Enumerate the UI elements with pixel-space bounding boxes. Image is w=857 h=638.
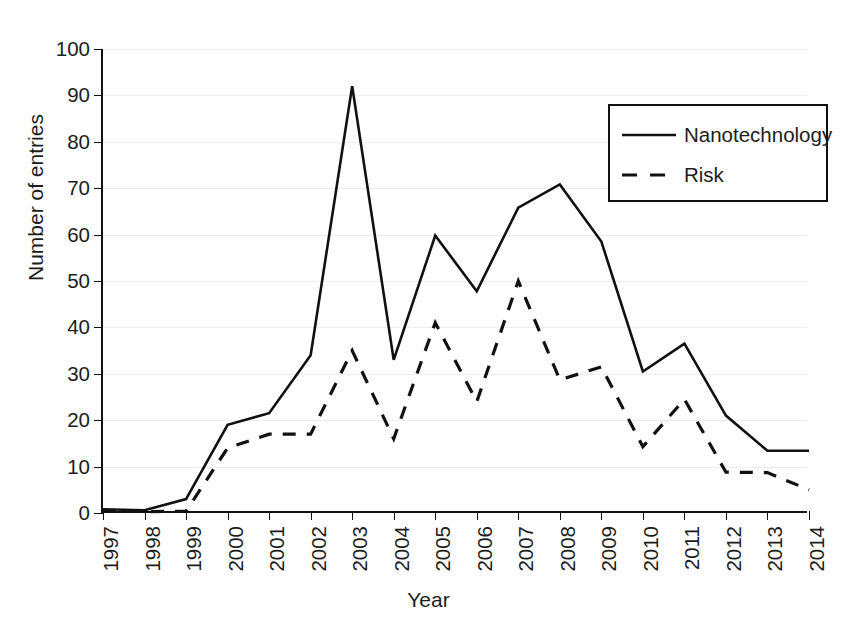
y-tick-label: 60 <box>67 223 90 247</box>
x-tick-label: 2000 <box>224 526 248 572</box>
x-tick-label: 1999 <box>182 526 206 572</box>
chart-legend: Nanotechnology Risk <box>608 104 828 202</box>
x-tick <box>809 511 810 520</box>
x-tick-label: 2011 <box>680 526 704 570</box>
legend-line-solid-icon <box>621 128 677 142</box>
x-tick-label: 2005 <box>431 526 455 572</box>
y-tick-label: 70 <box>67 176 90 200</box>
y-tick <box>94 49 103 50</box>
y-tick-label: 10 <box>67 455 90 479</box>
y-tick-label: 80 <box>67 130 90 154</box>
legend-item-risk: Risk <box>621 162 818 188</box>
y-tick-label: 100 <box>56 37 90 61</box>
legend-line-dashed-icon <box>621 168 677 182</box>
line-chart: Number of entries 0102030405060708090100… <box>0 0 857 638</box>
x-tick-label: 2010 <box>639 526 663 572</box>
x-tick-label: 1998 <box>141 526 165 572</box>
y-tick <box>94 142 103 143</box>
legend-item-nanotechnology: Nanotechnology <box>621 122 818 148</box>
y-tick-label: 20 <box>67 408 90 432</box>
y-tick <box>94 235 103 236</box>
x-tick-label: 2008 <box>556 526 580 572</box>
y-tick-label: 0 <box>79 501 90 525</box>
series-line-risk <box>103 281 809 512</box>
x-axis-title: Year <box>0 588 857 612</box>
y-tick <box>94 420 103 421</box>
x-tick-label: 1997 <box>99 526 123 572</box>
y-tick <box>94 513 103 514</box>
y-tick-label: 30 <box>67 362 90 386</box>
y-tick <box>94 374 103 375</box>
y-tick <box>94 327 103 328</box>
y-tick <box>94 95 103 96</box>
x-tick-label: 2002 <box>307 526 331 572</box>
y-tick-label: 40 <box>67 315 90 339</box>
y-axis-title: Number of entries <box>24 114 48 281</box>
y-tick <box>94 188 103 189</box>
legend-label: Risk <box>684 163 724 187</box>
x-tick-label: 2014 <box>805 526 829 572</box>
x-tick-label: 2012 <box>722 526 746 572</box>
x-tick-label: 2001 <box>265 526 289 572</box>
x-tick-label: 2013 <box>763 526 787 572</box>
x-tick-label: 2004 <box>390 526 414 572</box>
y-tick <box>94 467 103 468</box>
legend-label: Nanotechnology <box>684 123 832 147</box>
x-tick-label: 2006 <box>473 526 497 572</box>
y-tick <box>94 281 103 282</box>
x-tick-label: 2003 <box>348 526 372 572</box>
y-tick-label: 90 <box>67 83 90 107</box>
x-tick-label: 2009 <box>597 526 621 572</box>
x-tick-label: 2007 <box>514 526 538 572</box>
y-tick-label: 50 <box>67 269 90 293</box>
